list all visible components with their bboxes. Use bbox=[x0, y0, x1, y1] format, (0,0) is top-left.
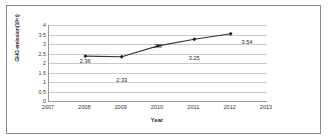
y-axis-title: GHG emission(10⁹t) bbox=[11, 3, 23, 73]
y-tick-label: 2.5 bbox=[29, 51, 46, 57]
point-label-2011: 3.25 bbox=[179, 55, 209, 62]
x-tick-label: 2008 bbox=[67, 103, 101, 111]
x-tick-label: 2013 bbox=[249, 103, 283, 111]
y-tick-label: 3.5 bbox=[29, 32, 46, 38]
data-point-marker bbox=[192, 37, 196, 41]
x-axis-title: Year bbox=[48, 117, 266, 123]
x-tick-label: 2009 bbox=[104, 103, 138, 111]
data-point-marker bbox=[229, 32, 233, 36]
x-tick-label: 2012 bbox=[213, 103, 247, 111]
y-tick-label: 1 bbox=[29, 79, 46, 85]
x-tick-label: 2007 bbox=[31, 103, 65, 111]
chart-screenshot: GHG emission(10⁹t) 4 3.5 3 2.5 2 1.5 1 0… bbox=[0, 0, 328, 140]
y-tick-label: 2 bbox=[29, 60, 46, 66]
y-tick-label: 4 bbox=[29, 22, 46, 28]
point-label-2010: 2.9 bbox=[143, 43, 173, 50]
y-axis-tick-labels: 4 3.5 3 2.5 2 1.5 1 0.5 0 bbox=[29, 25, 46, 101]
plot-area: 2.36 2.33 2.9 3.25 3.54 bbox=[48, 25, 267, 102]
y-tick-label: 1.5 bbox=[29, 70, 46, 76]
x-tick-label: 2010 bbox=[140, 103, 174, 111]
point-label-2009: 2.33 bbox=[107, 77, 137, 84]
y-tick-label: 3 bbox=[29, 41, 46, 47]
point-label-2008: 2.36 bbox=[70, 58, 100, 65]
data-point-marker bbox=[120, 55, 124, 59]
x-tick-label: 2011 bbox=[176, 103, 210, 111]
point-label-2012: 3.54 bbox=[232, 39, 262, 46]
line-chart: GHG emission(10⁹t) 4 3.5 3 2.5 2 1.5 1 0… bbox=[0, 0, 328, 140]
y-tick-label: 0.5 bbox=[29, 89, 46, 95]
x-axis-tick-labels: 2007 2008 2009 2010 2011 2012 2013 bbox=[48, 103, 266, 113]
